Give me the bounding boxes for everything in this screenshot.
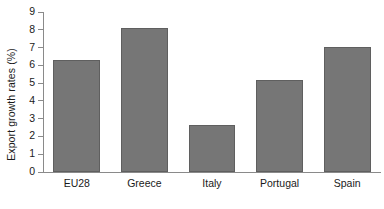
y-tick-label: 3 [15, 113, 35, 124]
y-tick-label: 4 [15, 95, 35, 106]
x-tick-label-portugal: Portugal [246, 178, 314, 189]
y-tick-label: 7 [15, 42, 35, 53]
y-tick-label: 0 [15, 166, 35, 177]
bar-portugal [256, 80, 303, 172]
y-tick-label: 1 [15, 148, 35, 159]
bar-eu28 [53, 60, 100, 172]
y-tick-label: 2 [15, 130, 35, 141]
bar-chart: Export growth rates (%) 0123456789 EU28G… [0, 0, 384, 209]
y-tick-label: 6 [15, 59, 35, 70]
x-tick-label-eu28: EU28 [43, 178, 111, 189]
x-tick-label-greece: Greece [111, 178, 179, 189]
x-tick-label-spain: Spain [313, 178, 381, 189]
bar-spain [324, 47, 371, 172]
x-axis-line [43, 172, 381, 173]
y-tick-label: 5 [15, 77, 35, 88]
x-tick-label-italy: Italy [178, 178, 246, 189]
y-tick-label: 8 [15, 24, 35, 35]
bars-layer [43, 12, 381, 172]
y-tick-label: 9 [15, 6, 35, 17]
bar-italy [189, 125, 236, 172]
bar-greece [121, 28, 168, 172]
